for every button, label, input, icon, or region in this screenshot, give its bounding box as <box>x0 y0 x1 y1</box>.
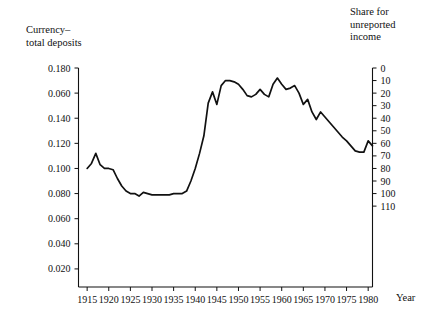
chart-figure: Currency– total deposits Share for unrep… <box>0 0 432 320</box>
y2-tick-label: 60 <box>381 138 391 149</box>
y-tick-label: 0.180 <box>48 63 71 74</box>
x-tick-label: 1980 <box>358 294 378 305</box>
series-line-currency-total-deposits <box>87 78 372 196</box>
y2-tick-label: 30 <box>381 100 391 111</box>
bottom-axis: 1915192019251930193519401945195019551960… <box>77 287 378 305</box>
x-tick-label: 1965 <box>293 294 313 305</box>
x-tick-label: 1950 <box>228 294 248 305</box>
y-tick-label: 0.060 <box>48 88 71 99</box>
y2-tick-label: 90 <box>381 176 391 187</box>
x-tick-label: 1940 <box>185 294 205 305</box>
x-tick-label: 1915 <box>77 294 97 305</box>
y2-tick-label: 100 <box>381 188 396 199</box>
x-tick-label: 1920 <box>99 294 119 305</box>
y-tick-label: 0.100 <box>48 163 71 174</box>
x-tick-label: 1960 <box>272 294 292 305</box>
y-tick-label: 0.040 <box>48 238 71 249</box>
y2-tick-label: 0 <box>381 63 386 74</box>
y2-tick-label: 110 <box>381 201 396 212</box>
x-axis-title: Year <box>396 292 415 305</box>
y-tick-label: 0.080 <box>48 188 71 199</box>
y2-tick-label: 20 <box>381 88 391 99</box>
data-series <box>87 78 372 196</box>
x-tick-label: 1945 <box>207 294 227 305</box>
y-tick-label: 0.060 <box>48 213 71 224</box>
y2-tick-label: 10 <box>381 75 391 86</box>
x-tick-label: 1925 <box>120 294 140 305</box>
x-tick-label: 1970 <box>315 294 335 305</box>
x-tick-label: 1975 <box>337 294 357 305</box>
y2-tick-label: 80 <box>381 163 391 174</box>
y-tick-label: 0.020 <box>48 263 71 274</box>
left-axis: 0.1800.0600.1400.1200.1000.0800.0600.040… <box>48 63 79 288</box>
y2-tick-label: 50 <box>381 125 391 136</box>
right-axis: 1101009080706050403020100 <box>373 63 396 288</box>
y-tick-label: 0.140 <box>48 113 71 124</box>
x-tick-label: 1930 <box>142 294 162 305</box>
x-tick-label: 1935 <box>164 294 184 305</box>
y-tick-label: 0.120 <box>48 138 71 149</box>
y2-tick-label: 70 <box>381 150 391 161</box>
line-chart-plot: 0.1800.0600.1400.1200.1000.0800.0600.040… <box>0 0 432 320</box>
x-tick-label: 1955 <box>250 294 270 305</box>
y2-tick-label: 40 <box>381 113 391 124</box>
